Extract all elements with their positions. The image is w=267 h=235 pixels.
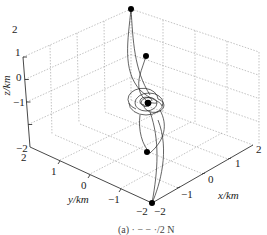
3d-trajectory-figure: 2 1 0 −1 −2 z/km 2 1 0 −1 −2 y/km −2 −1 …	[0, 0, 267, 235]
x-tick-neg1: −1	[181, 189, 193, 200]
x-tick-1: 1	[235, 158, 241, 169]
z-tick-neg1: −1	[13, 97, 25, 108]
y-tick-0: 0	[81, 180, 87, 191]
y-axis-title: y/km	[68, 194, 89, 205]
marker-center	[145, 100, 152, 107]
y-tick-neg1: −1	[108, 194, 120, 205]
marker-lower	[144, 149, 150, 155]
marker-upper	[143, 53, 149, 59]
x-tick-0: 0	[208, 174, 214, 185]
y-tick-2: 2	[21, 152, 27, 163]
x-tick-neg2: −2	[154, 206, 166, 217]
z-tick-1: 1	[15, 47, 21, 58]
z-tick-0: 0	[16, 72, 22, 83]
marker-top	[128, 6, 134, 12]
z-axis-title: z/km	[1, 75, 12, 95]
x-tick-2: 2	[256, 144, 262, 155]
trajectory-curves	[128, 9, 165, 203]
axes	[23, 57, 253, 203]
y-axis-line	[30, 147, 152, 203]
z-tick-2: 2	[12, 24, 18, 35]
figure-caption: (a) · − − ·/2 N	[118, 224, 175, 235]
x-axis-title: x/km	[218, 190, 239, 201]
y-tick-neg2: −2	[136, 206, 148, 217]
trajectory-markers	[128, 6, 155, 206]
y-tick-1: 1	[51, 166, 57, 177]
